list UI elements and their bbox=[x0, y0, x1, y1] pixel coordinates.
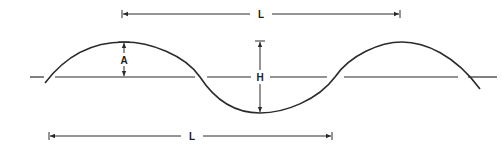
wavelength-dimension-top: L bbox=[122, 9, 400, 20]
wavelength-label-top: L bbox=[258, 9, 264, 20]
wavelength-dimension-bottom: L bbox=[49, 131, 332, 142]
amplitude-label: A bbox=[120, 55, 127, 66]
height-dimension: H bbox=[255, 41, 265, 112]
wavelength-label-bottom: L bbox=[189, 131, 195, 142]
amplitude-dimension: A bbox=[118, 42, 130, 76]
wave-diagram: L A H L bbox=[0, 0, 502, 153]
height-label: H bbox=[256, 72, 263, 83]
